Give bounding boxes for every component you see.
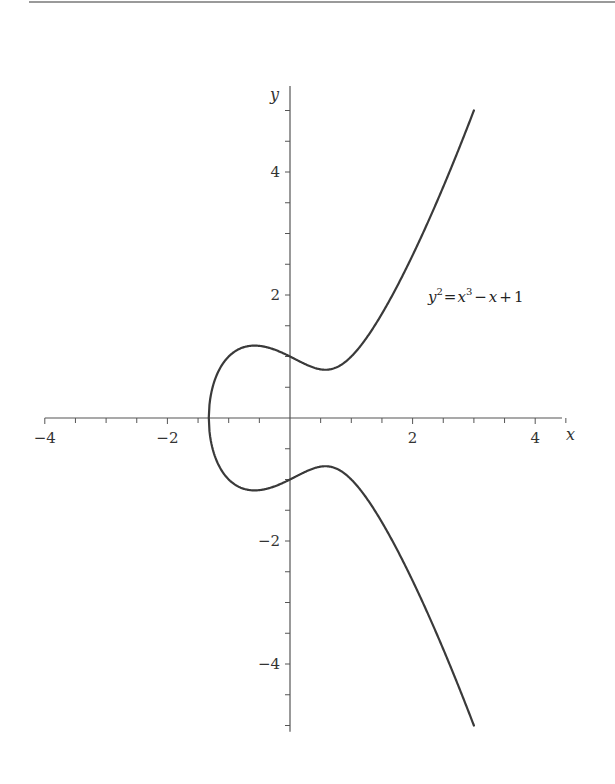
y-axis-label: y — [269, 85, 280, 104]
x-tick-label: −4 — [34, 429, 56, 447]
eq-y-exponent: 2 — [436, 286, 442, 297]
eq-x-exponent: 3 — [466, 286, 472, 297]
x-tick-label: −2 — [156, 429, 178, 447]
y-tick-label: −4 — [258, 655, 280, 673]
eq-plus: + — [499, 288, 512, 306]
eq-one: 1 — [514, 288, 524, 306]
equation-label: y2=x3−x+1 — [427, 286, 523, 306]
y-tick-label: 4 — [270, 163, 280, 181]
y-tick-label: 2 — [270, 286, 280, 304]
eq-x2: x — [489, 288, 498, 306]
x-axis-label: x — [566, 425, 575, 444]
y-tick-label: −2 — [258, 532, 280, 550]
eq-minus: − — [474, 288, 487, 306]
x-tick-label: 4 — [530, 429, 540, 447]
plot-area: −4−22442−2−4 x y y2=x3−x+1 — [0, 0, 615, 784]
x-tick-label: 2 — [408, 429, 418, 447]
eq-equals: = — [444, 288, 457, 306]
axes — [45, 86, 562, 732]
